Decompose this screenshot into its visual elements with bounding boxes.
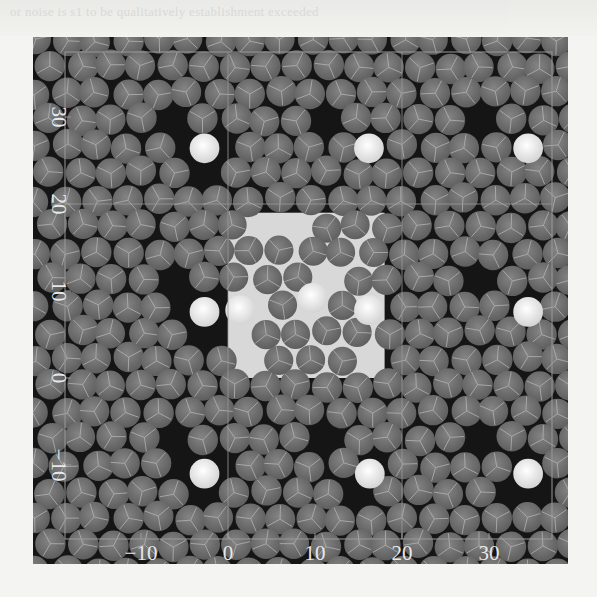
particle [35,51,65,81]
particle [264,24,294,54]
particle [126,103,156,133]
particle [252,320,281,349]
bright-particle [355,459,385,489]
particle [218,210,247,239]
particle [219,263,248,292]
particle [65,422,95,452]
particle [53,555,83,585]
particle [435,105,465,135]
particle [172,23,202,53]
particle [52,78,82,108]
particle [21,24,51,54]
particle [144,184,174,214]
particle [540,291,570,321]
particle [465,158,495,188]
particle [511,23,541,53]
particle [462,369,492,399]
particle [68,209,98,239]
particle [326,238,355,267]
particle [403,104,433,134]
particle [417,291,447,321]
particle [388,449,418,479]
particle [96,421,126,451]
particle [68,51,98,81]
particle [371,265,401,295]
particle [156,369,186,399]
particle [344,267,373,296]
particle [357,77,387,107]
particle [126,155,156,185]
particle [296,345,325,374]
particle [96,158,126,188]
particle [68,315,98,345]
particle [371,159,401,189]
particle [543,130,573,160]
particle [528,210,558,240]
particle [513,341,543,371]
particle [263,557,293,587]
particle [493,371,523,401]
y-tick-label: 10 [47,281,71,302]
particle [158,50,188,80]
particle [405,318,435,348]
particle [114,503,144,533]
particle [405,52,435,82]
particle [482,452,512,482]
bright-particle [190,297,220,327]
particle [126,370,156,400]
particle [18,291,48,321]
particle [496,104,526,134]
particle [496,213,526,243]
particle [451,556,481,586]
particle [528,262,558,292]
particle [83,558,113,588]
particle [109,448,139,478]
particle [79,396,109,426]
particle [528,531,558,561]
particle [129,422,159,452]
particle [234,558,264,588]
particle [478,240,508,270]
particle [204,395,234,425]
particle [68,529,98,559]
particle [263,449,293,479]
particle [540,182,570,212]
particle [189,210,219,240]
particle [497,266,527,296]
particle [144,23,174,53]
particle [294,395,324,425]
particle [129,264,159,294]
particle [187,370,217,400]
particle [513,559,543,589]
particle [390,25,420,55]
particle [266,76,296,106]
particle [466,211,496,241]
particle [390,292,420,322]
particle [359,238,388,267]
particle [418,395,448,425]
particle [160,212,190,242]
particle [296,185,326,215]
particle [496,532,526,562]
particle [325,505,355,535]
y-tick-label: 20 [47,194,71,215]
particle [125,209,155,239]
particle [66,158,96,188]
y-tick-label: −10 [47,449,71,482]
particle [79,77,109,107]
particle [357,557,387,587]
particle [297,504,327,534]
particle [370,103,400,133]
particle [234,236,263,265]
particle [236,503,266,533]
bright-particle [513,459,543,489]
particle [96,264,126,294]
particle [451,24,481,54]
particle [268,291,297,320]
particle [343,373,373,403]
particle [448,182,478,212]
particle [233,397,263,427]
particle [480,76,510,106]
x-tick-label: 10 [305,541,326,565]
x-tick-label: −10 [125,541,158,565]
